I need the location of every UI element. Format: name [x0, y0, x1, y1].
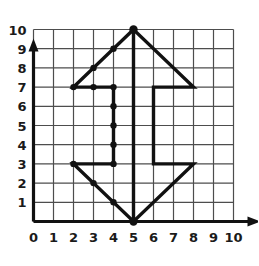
marked-point-5-0	[129, 217, 137, 225]
marked-point-4-4	[110, 142, 116, 148]
y-axis-arrowhead-icon	[29, 39, 39, 52]
x-tick-label-10: 10	[224, 230, 242, 245]
marked-point-4-3	[110, 161, 116, 167]
y-axis-tick-labels: 12345678910	[8, 23, 26, 211]
x-tick-label-5: 5	[129, 230, 138, 245]
x-tick-label-9: 9	[209, 230, 218, 245]
marked-point-4-5	[110, 122, 116, 128]
x-tick-label-8: 8	[189, 230, 198, 245]
y-tick-label-6: 6	[17, 99, 26, 114]
marked-point-3-2	[90, 180, 96, 186]
marked-point-5-10	[129, 25, 137, 33]
x-axis-tick-labels: 012345678910	[29, 230, 243, 245]
x-tick-label-2: 2	[69, 230, 78, 245]
y-tick-label-7: 7	[17, 80, 26, 95]
axes	[29, 39, 259, 227]
marked-point-4-6	[110, 103, 116, 109]
x-tick-label-6: 6	[149, 230, 158, 245]
y-tick-label-1: 1	[17, 195, 26, 210]
y-tick-label-10: 10	[8, 23, 26, 38]
y-tick-label-5: 5	[17, 119, 26, 134]
marked-point-2-3	[70, 161, 76, 167]
y-tick-label-2: 2	[17, 176, 26, 191]
x-axis-arrowhead-icon	[248, 217, 259, 227]
x-tick-label-0: 0	[29, 230, 38, 245]
marked-point-2-7	[70, 84, 76, 90]
marked-point-4-1	[110, 199, 116, 205]
marked-point-4-7	[110, 84, 116, 90]
x-tick-label-3: 3	[89, 230, 98, 245]
x-tick-label-1: 1	[49, 230, 58, 245]
marked-point-3-8	[90, 65, 96, 71]
marked-point-4-9	[110, 46, 116, 52]
coordinate-grid-figure: 012345678910 12345678910	[0, 0, 258, 266]
y-tick-label-3: 3	[17, 157, 26, 172]
x-tick-label-7: 7	[169, 230, 178, 245]
y-tick-label-9: 9	[17, 42, 26, 57]
y-tick-label-8: 8	[17, 61, 26, 76]
y-tick-label-4: 4	[17, 138, 26, 153]
marked-point-3-7	[90, 84, 96, 90]
x-tick-label-4: 4	[109, 230, 118, 245]
